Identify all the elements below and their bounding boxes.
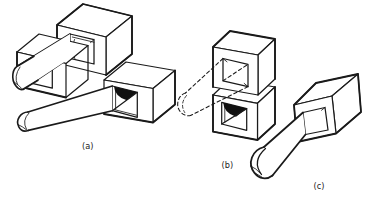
upper-cube-front-face — [213, 47, 258, 95]
figure-a: (a) — [13, 4, 175, 151]
phantom-peg-cap-arc — [178, 93, 191, 116]
phantom-peg-cap-contour — [183, 96, 187, 113]
figure-a-label: (a) — [82, 141, 93, 151]
figure-b-label: (b) — [222, 160, 234, 170]
figure-c-label: (c) — [314, 181, 325, 191]
diagram-canvas: (a) — [0, 0, 373, 202]
figure-b-upper-cube — [213, 31, 275, 95]
figure-a-right-cube — [104, 62, 175, 123]
assembly-line-diagram: (a) — [0, 0, 373, 202]
